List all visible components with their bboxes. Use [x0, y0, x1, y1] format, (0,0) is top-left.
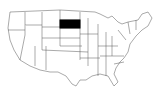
us-map	[0, 0, 163, 93]
us-map-svg	[0, 0, 163, 93]
state-south-dakota[interactable]	[60, 20, 80, 28]
